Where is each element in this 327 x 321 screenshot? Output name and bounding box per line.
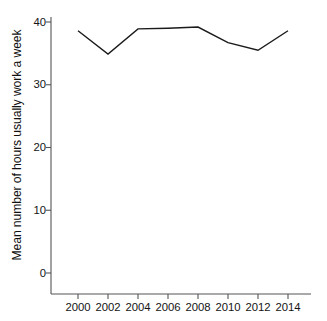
axis-lines [51,17,311,294]
data-series-line [78,27,288,54]
x-axis-ticks [78,294,288,299]
plot-area [0,0,327,321]
chart-figure: Mean number of hours usually work a week… [0,0,327,321]
y-axis-ticks [46,22,51,273]
